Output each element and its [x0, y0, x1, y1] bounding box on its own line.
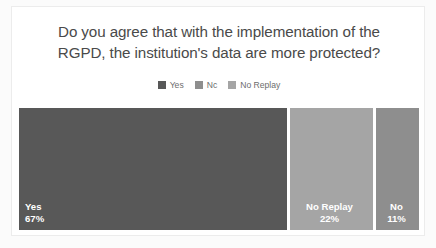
- legend-item-yes[interactable]: Yes: [158, 80, 184, 90]
- legend-item-label: No Replay: [240, 80, 280, 90]
- chart-legend: Yes Nc No Replay: [12, 80, 426, 90]
- chart-segment-no-replay[interactable]: No Replay 22%: [290, 108, 373, 230]
- chart-segment-label-group: Yes 67%: [25, 201, 44, 225]
- chart-segment-value: 22%: [290, 213, 369, 225]
- chart-segment-name: No: [376, 201, 417, 213]
- chart-segment-name: Yes: [25, 201, 44, 213]
- chart-segment-value: 11%: [376, 213, 417, 225]
- legend-item-no[interactable]: Nc: [195, 80, 218, 90]
- chart-plot-area: Yes 67% No Replay 22% No 11%: [19, 108, 419, 230]
- legend-swatch-icon: [158, 81, 166, 89]
- chart-title-line-2: RGPD, the institution's data are more pr…: [20, 42, 418, 63]
- chart-title: Do you agree that with the implementatio…: [20, 21, 418, 63]
- chart-segment-value: 67%: [25, 213, 44, 225]
- chart-segment-label-group: No 11%: [376, 201, 419, 225]
- chart-segment-name: No Replay: [290, 201, 369, 213]
- chart-segment-no[interactable]: No 11%: [376, 108, 419, 230]
- legend-swatch-icon: [228, 81, 236, 89]
- chart-segment-yes[interactable]: Yes 67%: [19, 108, 287, 230]
- chart-card: Do you agree that with the implementatio…: [11, 6, 425, 236]
- legend-item-no-replay[interactable]: No Replay: [228, 80, 280, 90]
- legend-item-label: Nc: [207, 80, 218, 90]
- legend-swatch-icon: [195, 81, 203, 89]
- chart-segment-label-group: No Replay 22%: [290, 201, 373, 225]
- chart-title-line-1: Do you agree that with the implementatio…: [20, 21, 418, 42]
- legend-item-label: Yes: [170, 80, 184, 90]
